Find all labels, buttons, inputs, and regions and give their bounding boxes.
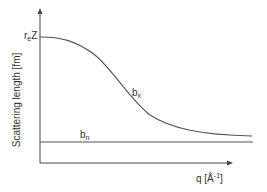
bn-sub: n bbox=[86, 134, 90, 141]
bx-curve bbox=[40, 37, 252, 136]
x-axis-main: q [Å bbox=[196, 173, 214, 184]
bn-label: bn bbox=[80, 130, 89, 141]
x-axis-tail: ] bbox=[220, 173, 223, 184]
y-tick-reZ: reZ bbox=[24, 31, 37, 42]
bx-label: bx bbox=[132, 88, 141, 99]
y-axis-arrow-icon bbox=[38, 8, 43, 14]
y-tick-tail: Z bbox=[31, 30, 37, 41]
bx-sub: x bbox=[138, 92, 142, 99]
y-axis-label: Scattering length [fm] bbox=[11, 53, 22, 148]
x-axis-label: q [Å-1] bbox=[196, 172, 223, 184]
x-axis-arrow-icon bbox=[227, 161, 233, 166]
